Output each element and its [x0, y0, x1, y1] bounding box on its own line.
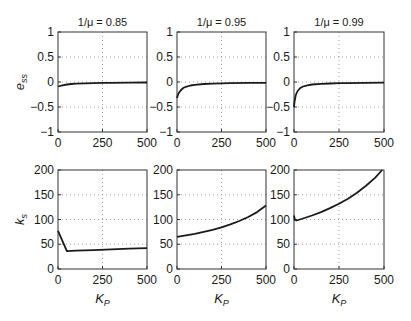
- y-tick-label: 50: [160, 237, 174, 251]
- plot-panel-5: 0250500050100150200KP: [153, 163, 276, 308]
- y-tick-label: 1: [166, 25, 173, 39]
- x-tick-label: 500: [374, 136, 394, 150]
- y-tick-label: 150: [34, 188, 54, 202]
- y-tick-label: 0: [47, 262, 54, 276]
- y-tick-label: 0: [166, 262, 173, 276]
- x-tick-label: 250: [211, 273, 231, 287]
- y-tick-label: 0.5: [37, 50, 54, 64]
- y-tick-label: 0: [283, 262, 290, 276]
- x-tick-label: 500: [137, 273, 157, 287]
- x-tick-label: 250: [92, 136, 112, 150]
- x-axis-label: KP: [214, 291, 229, 308]
- y-tick-label: 0: [47, 75, 54, 89]
- x-tick-label: 0: [55, 136, 62, 150]
- y-tick-label: −1: [159, 125, 173, 139]
- plot-panel-6: 0250500050100150200KP: [270, 163, 394, 308]
- y-tick-label: −0.5: [266, 100, 290, 114]
- y-tick-label: 50: [277, 237, 291, 251]
- x-tick-label: 0: [291, 136, 298, 150]
- y-axis-label: ess: [12, 73, 29, 90]
- y-tick-label: 100: [153, 213, 173, 227]
- x-axis-label: KP: [332, 291, 347, 308]
- y-tick-label: −1: [276, 125, 290, 139]
- y-tick-label: −1: [40, 125, 54, 139]
- figure: 0250500−1−0.500.511/μ = 0.85ess0250500−1…: [0, 0, 411, 321]
- x-tick-label: 500: [256, 273, 276, 287]
- x-tick-label: 250: [211, 136, 231, 150]
- panel-title: 1/μ = 0.95: [197, 16, 246, 28]
- y-tick-label: 1: [47, 25, 54, 39]
- y-tick-label: 50: [41, 237, 55, 251]
- plot-panel-1: 0250500−1−0.500.511/μ = 0.85ess: [12, 16, 157, 150]
- x-tick-label: 0: [174, 136, 181, 150]
- y-tick-label: 0: [283, 75, 290, 89]
- data-line: [294, 170, 382, 221]
- plot-panel-3: 0250500−1−0.500.511/μ = 0.99: [266, 16, 394, 150]
- y-tick-label: 150: [270, 188, 290, 202]
- x-tick-label: 250: [329, 136, 349, 150]
- y-tick-label: −0.5: [30, 100, 54, 114]
- x-axis-label: KP: [95, 291, 110, 308]
- x-tick-label: 250: [329, 273, 349, 287]
- data-line: [294, 83, 384, 107]
- y-tick-label: 100: [270, 213, 290, 227]
- y-tick-label: 150: [153, 188, 173, 202]
- x-tick-label: 500: [374, 273, 394, 287]
- y-axis-label: ks: [12, 214, 29, 226]
- y-tick-label: 200: [270, 163, 290, 177]
- y-tick-label: 0: [166, 75, 173, 89]
- data-line: [58, 231, 147, 251]
- y-tick-label: 200: [153, 163, 173, 177]
- panel-title: 1/μ = 0.99: [314, 16, 363, 28]
- x-tick-label: 0: [291, 273, 298, 287]
- x-tick-label: 250: [92, 273, 112, 287]
- plot-panel-4: 0250500050100150200ksKP: [12, 163, 157, 308]
- x-tick-label: 0: [174, 273, 181, 287]
- y-tick-label: 100: [34, 213, 54, 227]
- x-tick-label: 500: [256, 136, 276, 150]
- x-tick-label: 0: [55, 273, 62, 287]
- panel-title: 1/μ = 0.85: [78, 16, 127, 28]
- y-tick-label: −0.5: [149, 100, 173, 114]
- data-line: [177, 83, 266, 98]
- y-tick-label: 0.5: [273, 50, 290, 64]
- y-tick-label: 0.5: [156, 50, 173, 64]
- y-tick-label: 1: [283, 25, 290, 39]
- y-tick-label: 200: [34, 163, 54, 177]
- x-tick-label: 500: [137, 136, 157, 150]
- plot-panel-2: 0250500−1−0.500.511/μ = 0.95: [149, 16, 276, 150]
